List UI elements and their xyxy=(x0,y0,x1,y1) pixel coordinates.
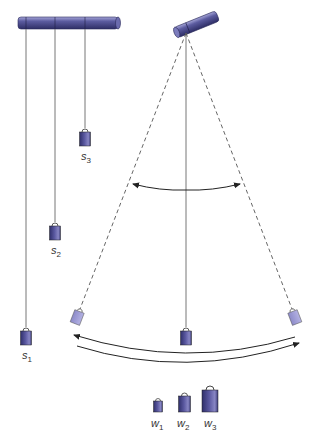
diagram-canvas xyxy=(0,0,315,444)
label-w2: w2 xyxy=(177,417,189,432)
label-s3: s3 xyxy=(81,150,91,165)
weight-w3 xyxy=(202,386,218,412)
pendulum-s3 xyxy=(80,29,91,146)
pendulum-left-extreme xyxy=(70,33,186,325)
label-s2: s2 xyxy=(51,244,61,259)
pendulum-s1 xyxy=(21,29,32,345)
label-s1: s1 xyxy=(22,349,32,364)
pendulum-right-extreme xyxy=(186,33,302,325)
label-w1: w1 xyxy=(151,417,163,432)
pendulum-s2 xyxy=(50,29,61,240)
horizontal-rod xyxy=(18,17,121,29)
tilted-rod xyxy=(172,11,219,39)
label-w3: w3 xyxy=(204,417,216,432)
weight-w1 xyxy=(154,399,163,412)
weight-w2 xyxy=(179,393,191,412)
pendulum-center xyxy=(181,33,192,345)
pendulum-diagram: s3 s2 s1 w1 w2 w3 xyxy=(0,0,315,444)
